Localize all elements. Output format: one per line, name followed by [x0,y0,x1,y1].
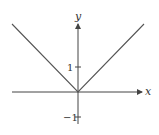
y-tick-label-neg1: −1 [63,112,78,123]
graph-canvas: y x 1 −1 [0,0,159,135]
y-axis-label: y [74,10,82,23]
y-tick-label-1: 1 [67,62,73,73]
x-axis-label: x [145,85,152,98]
